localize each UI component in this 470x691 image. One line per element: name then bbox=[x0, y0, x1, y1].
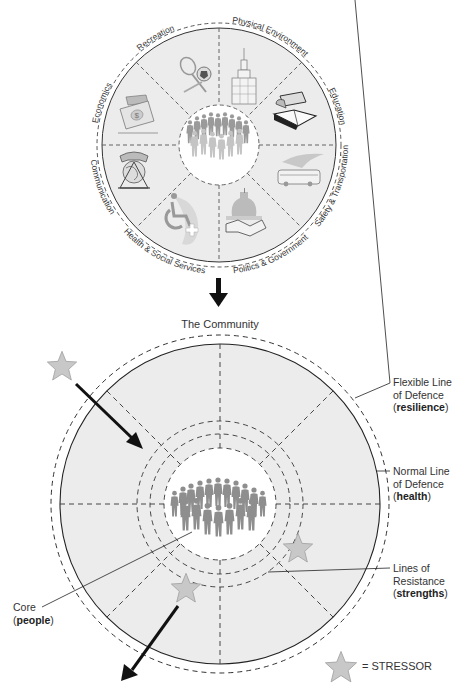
paren: ) bbox=[427, 490, 431, 502]
label-line: of Defence bbox=[393, 478, 450, 491]
community-title: The Community bbox=[181, 318, 259, 330]
star-icon bbox=[325, 651, 356, 681]
paren: ) bbox=[444, 587, 448, 599]
lines-of-resistance-label: Lines of Resistance (strengths) bbox=[393, 562, 448, 600]
label-bold: resilience bbox=[397, 401, 445, 413]
label-line: (health) bbox=[393, 490, 450, 503]
core-label: Core (people) bbox=[13, 601, 54, 626]
label-line: (strengths) bbox=[393, 587, 448, 600]
arrow-down-icon bbox=[209, 278, 228, 307]
label-line: of Defence bbox=[393, 389, 452, 402]
label-bold: health bbox=[397, 490, 428, 502]
flexible-line-of-defence-label: Flexible Line of Defence (resilience) bbox=[393, 376, 452, 414]
telephone-globe-icon bbox=[118, 152, 150, 188]
normal-line-of-defence-label: Normal Line of Defence (health) bbox=[393, 465, 450, 503]
stressor-legend-label: = STRESSOR bbox=[362, 660, 432, 673]
community-subsystems-wheel: $ bbox=[89, 15, 350, 275]
svg-text:$: $ bbox=[135, 111, 140, 120]
paren: ) bbox=[50, 614, 54, 626]
star-icon bbox=[47, 351, 76, 380]
label-line: (people) bbox=[13, 614, 54, 627]
label-line: (resilience) bbox=[393, 401, 452, 414]
label-line: Resistance bbox=[393, 575, 448, 588]
paren: ) bbox=[445, 401, 449, 413]
label-bold: strengths bbox=[397, 587, 445, 599]
label-line: Flexible Line bbox=[393, 376, 452, 389]
label-line: Lines of bbox=[393, 562, 448, 575]
label-line: Core bbox=[13, 601, 54, 614]
label-line: Normal Line bbox=[393, 465, 450, 478]
label-bold: people bbox=[17, 614, 51, 626]
community-as-partner-diagram: $ bbox=[0, 0, 470, 691]
